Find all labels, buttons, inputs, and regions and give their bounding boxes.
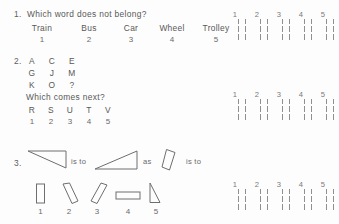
q3-answer-label-1: 1 — [228, 180, 242, 189]
q2-answer-label-4: 4 — [294, 90, 308, 99]
q1-answer-option-3[interactable]: 3 — [272, 10, 286, 19]
q1-option-4-number: 4 — [152, 35, 192, 44]
q3-answer-option-4[interactable]: 4 — [294, 180, 308, 189]
q3-answer-label-5: 5 — [316, 180, 330, 189]
q2-answer-label-1: 1 — [228, 90, 242, 99]
q2-option-4-label[interactable]: T — [83, 105, 95, 115]
q1-answer-option-2[interactable]: 2 — [250, 10, 264, 19]
q3-option-4-wide-rectangle-icon[interactable] — [115, 189, 141, 201]
q2-option-1-label[interactable]: R — [26, 105, 38, 115]
q2-answer-label-3: 3 — [272, 90, 286, 99]
q2-matrix-r0c0: A — [26, 56, 38, 66]
q1-answer-label-5: 5 — [316, 10, 330, 19]
question-2-number: 2. — [14, 56, 22, 66]
q3-option-3-number: 3 — [90, 207, 104, 216]
q1-answer-label-2: 2 — [250, 10, 264, 19]
q2-option-4-number: 4 — [83, 117, 95, 126]
q1-answer-option-1[interactable]: 1 — [228, 10, 242, 19]
q2-answer-option-2[interactable]: 2 — [250, 90, 264, 99]
question-2-prompt: Which comes next? — [26, 92, 105, 102]
q1-option-2-number: 2 — [72, 35, 106, 44]
q3-relation-1-label: is to — [71, 157, 86, 166]
q1-option-3-label[interactable]: Car — [116, 23, 146, 33]
q3-figure-b-triangle-icon — [94, 150, 138, 171]
q3-answer-option-5[interactable]: 5 — [316, 180, 330, 189]
q1-answer-option-4[interactable]: 4 — [294, 10, 308, 19]
q3-answer-label-4: 4 — [294, 180, 308, 189]
question-3-number: 3. — [14, 158, 22, 168]
q1-answer-label-4: 4 — [294, 10, 308, 19]
q3-option-5-narrow-triangle-icon[interactable] — [148, 182, 162, 204]
q1-option-5-label[interactable]: Trolley — [195, 23, 237, 33]
q3-option-5-number: 5 — [149, 207, 163, 216]
q2-answer-option-5[interactable]: 5 — [316, 90, 330, 99]
q3-figure-a-triangle-icon — [27, 150, 67, 170]
q1-answer-label-1: 1 — [228, 10, 242, 19]
q2-matrix-r1c1: J — [46, 68, 58, 78]
q1-option-1-number: 1 — [22, 35, 62, 44]
q3-answer-option-1[interactable]: 1 — [228, 180, 242, 189]
q2-matrix-r2c2: ? — [66, 80, 78, 90]
question-1-number: 1. — [14, 9, 22, 19]
q2-option-3-label[interactable]: U — [64, 105, 76, 115]
q2-option-5-label[interactable]: V — [102, 105, 114, 115]
q3-relation-3-label: is to — [186, 157, 201, 166]
q2-option-3-number: 3 — [64, 117, 76, 126]
q1-option-5-number: 5 — [195, 35, 237, 44]
q2-option-1-number: 1 — [26, 117, 38, 126]
q3-answer-label-2: 2 — [250, 180, 264, 189]
q1-answer-option-5[interactable]: 5 — [316, 10, 330, 19]
q3-relation-2-label: as — [143, 157, 152, 166]
q3-option-2-number: 2 — [62, 207, 76, 216]
q3-option-1-upright-rectangle-icon[interactable] — [34, 183, 47, 204]
q3-option-1-number: 1 — [34, 207, 47, 216]
q3-answer-option-3[interactable]: 3 — [272, 180, 286, 189]
q3-figure-c-tilted-rectangle-icon — [161, 148, 181, 172]
q2-matrix-r1c0: G — [26, 68, 38, 78]
q1-option-3-number: 3 — [116, 35, 146, 44]
q2-answer-label-2: 2 — [250, 90, 264, 99]
q2-matrix-r0c1: C — [46, 56, 58, 66]
q1-option-4-label[interactable]: Wheel — [152, 23, 192, 33]
q2-matrix-r1c2: M — [66, 68, 78, 78]
q1-option-1-label[interactable]: Train — [22, 23, 62, 33]
q2-matrix-r0c2: E — [66, 56, 78, 66]
q3-option-3-tilted-rectangle-icon[interactable] — [89, 182, 109, 205]
q3-option-2-tilted-rectangle-icon[interactable] — [61, 182, 81, 205]
q3-answer-label-3: 3 — [272, 180, 286, 189]
q2-option-2-label[interactable]: S — [45, 105, 57, 115]
worksheet-page: 1. Which word does not belong? Train Bus… — [0, 0, 339, 224]
q2-option-5-number: 5 — [102, 117, 114, 126]
q2-matrix-r2c0: K — [26, 80, 38, 90]
q2-matrix-r2c1: O — [46, 80, 58, 90]
q2-answer-option-3[interactable]: 3 — [272, 90, 286, 99]
q1-answer-label-3: 3 — [272, 10, 286, 19]
q2-option-2-number: 2 — [45, 117, 57, 126]
question-1-prompt: Which word does not belong? — [27, 9, 147, 19]
q3-option-4-number: 4 — [121, 207, 135, 216]
q3-answer-option-2[interactable]: 2 — [250, 180, 264, 189]
q1-option-2-label[interactable]: Bus — [72, 23, 106, 33]
q2-answer-label-5: 5 — [316, 90, 330, 99]
q2-answer-option-4[interactable]: 4 — [294, 90, 308, 99]
q2-answer-option-1[interactable]: 1 — [228, 90, 242, 99]
